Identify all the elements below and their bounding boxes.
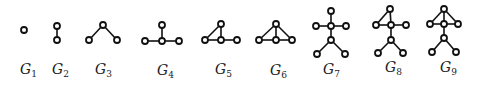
graph-label: G3	[95, 61, 112, 79]
graph-label-subscript: 1	[31, 69, 37, 79]
graph-label-subscript: 2	[63, 69, 69, 79]
graph-vertex	[54, 37, 60, 43]
graph-vertex	[273, 21, 279, 27]
graph-vertex	[202, 37, 208, 43]
graph-vertex	[289, 37, 295, 43]
graph-vertex	[21, 27, 27, 33]
graph-g2: G2	[52, 23, 69, 79]
graph-vertex	[387, 6, 393, 12]
graph-vertex	[313, 23, 319, 29]
graph-vertex	[400, 50, 406, 56]
graph-label: G7	[323, 61, 340, 79]
graph-vertex	[343, 23, 349, 29]
graph-label-subscript: 3	[106, 69, 112, 79]
graph-vertex	[427, 21, 433, 27]
graph-vertex	[114, 37, 120, 43]
graph-g1: G1	[20, 27, 37, 79]
graph-vertex	[328, 8, 334, 14]
graph-label-subscript: 7	[334, 69, 340, 79]
graph-label: G2	[52, 61, 69, 79]
graph-vertex	[234, 37, 240, 43]
graph-vertex	[100, 22, 106, 28]
graph-vertex	[403, 22, 409, 28]
graph-vertex	[218, 21, 224, 27]
graph-vertex	[176, 38, 182, 44]
graph-label-subscript: 8	[396, 67, 402, 77]
graph-vertex	[159, 38, 165, 44]
graph-vertex	[373, 22, 379, 28]
graph-vertex	[86, 37, 92, 43]
graph-label-subscript: 5	[226, 69, 232, 79]
graph-label: G9	[440, 59, 457, 77]
graph-label: G8	[385, 59, 402, 77]
graph-vertex	[388, 37, 394, 43]
graph-label-subscript: 6	[281, 70, 287, 80]
graph-g7: G7	[313, 8, 349, 79]
graph-g5: G5	[202, 21, 240, 79]
graph-vertex	[328, 23, 334, 29]
graph-label-subscript: 9	[451, 67, 457, 77]
graph-label: G5	[215, 61, 232, 79]
graph-vertex	[159, 22, 165, 28]
graph-vertex	[441, 6, 447, 12]
graph-vertex	[375, 50, 381, 56]
graph-label: G6	[270, 62, 287, 80]
graph-vertex	[314, 51, 320, 57]
graph-vertex	[429, 49, 435, 55]
graph-vertex	[54, 23, 60, 29]
graph-g8: G8	[373, 6, 409, 77]
graph-vertex	[441, 35, 447, 41]
graph-vertex	[441, 21, 447, 27]
graph-g3: G3	[86, 22, 120, 79]
graph-vertex	[455, 21, 461, 27]
graph-g9: G9	[427, 6, 461, 77]
graph-figure: G1G2G3G4G5G6G7G8G9	[0, 0, 481, 88]
graph-vertex	[453, 49, 459, 55]
graph-vertex	[273, 37, 279, 43]
graph-label: G1	[20, 61, 37, 79]
graph-g4: G4	[142, 22, 182, 80]
graph-label: G4	[157, 62, 174, 80]
graph-vertex	[342, 51, 348, 57]
graph-vertex	[142, 38, 148, 44]
graph-vertex	[328, 37, 334, 43]
graph-vertex	[218, 37, 224, 43]
graph-g6: G6	[256, 21, 295, 80]
graph-vertex	[388, 22, 394, 28]
graph-vertex	[256, 37, 262, 43]
graph-label-subscript: 4	[168, 70, 174, 80]
